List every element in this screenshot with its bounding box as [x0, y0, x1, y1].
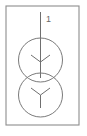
terminal-label-1: 1 [46, 14, 51, 24]
outer-border [6, 6, 79, 125]
diagram-canvas: 1 [0, 0, 87, 136]
transformer-diagram: 1 [0, 0, 87, 136]
